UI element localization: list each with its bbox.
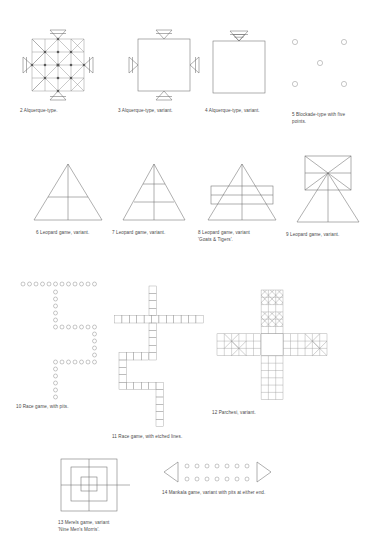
mankala-pit-row-top xyxy=(185,464,249,468)
appendage-right-triangle xyxy=(190,57,199,73)
board-square xyxy=(138,39,190,91)
figure-4-drawing xyxy=(205,28,285,106)
figure-14-mankala-variant: 14 Mankala game, variant with pits at ei… xyxy=(160,458,298,490)
figure-13-drawing xyxy=(58,456,134,518)
appendage-bottom-triangle xyxy=(156,91,172,100)
figure-10-race-game-with-pits: 10 Race game, with pits. xyxy=(16,278,108,403)
figure-11-drawing xyxy=(112,284,216,432)
figure-10-caption: 10 Race game, with pits. xyxy=(16,404,111,411)
figure-9-leopard-game: 9 Leopard game, variant. xyxy=(286,152,374,230)
mankala-pit-row-bottom xyxy=(185,477,249,481)
figure-8-drawing xyxy=(196,158,288,228)
figure-7-caption: 7 Leopard game, variant. xyxy=(112,230,207,237)
figure-8-caption: 8 Leopard game, variant 'Goats & Tigers'… xyxy=(198,230,293,243)
figure-9-caption: 9 Leopard game, variant. xyxy=(286,232,378,239)
appendage-right-triangle xyxy=(84,57,93,73)
parchesi-center-square xyxy=(261,334,283,356)
figure-3-alquerque-variant: 3 Alquerque-type, variant. xyxy=(118,28,210,106)
figure-11-race-game-etched-lines: 11 Race game, with etched lines. xyxy=(112,284,216,432)
figure-5-blockade-type: 5 Blockade-type with five points. xyxy=(288,32,358,94)
figure-7-leopard-game: 7 Leopard game, variant. xyxy=(112,158,198,228)
figure-10-drawing xyxy=(16,278,108,403)
figure-2-caption: 2 Alquerque-type. xyxy=(20,108,110,115)
figure-4-caption: 4 Alquerque-type, variant. xyxy=(205,108,300,115)
figure-12-parchesi-variant: 12 Parchesi, variant. xyxy=(210,288,378,428)
figure-4-alquerque-variant: 4 Alquerque-type, variant. xyxy=(205,28,285,106)
parchesi-right-arm-marked-cells xyxy=(305,334,327,356)
figure-8-goats-and-tigers: 8 Leopard game, variant 'Goats & Tigers'… xyxy=(196,158,288,228)
figure-5-caption: 5 Blockade-type with five points. xyxy=(292,112,374,125)
pit-track xyxy=(21,282,97,399)
figure-14-caption: 14 Mankala game, variant with pits at ei… xyxy=(162,490,312,497)
figure-6-drawing xyxy=(22,158,114,228)
appendage-bottom-triangle xyxy=(50,91,66,100)
alquerque-grid xyxy=(31,38,86,93)
figure-12-caption: 12 Parchesi, variant. xyxy=(212,410,322,417)
figure-13-caption: 13 Merels game, variant 'Nine Men's Morr… xyxy=(58,520,156,533)
figure-11-caption: 11 Race game, with etched lines. xyxy=(112,434,222,441)
figure-13-merels-nine-mens-morris: 13 Merels game, variant 'Nine Men's Morr… xyxy=(58,456,134,518)
appendage-top-double-triangle xyxy=(230,31,248,41)
appendage-left-triangle xyxy=(23,57,32,73)
figure-6-leopard-game: 6 Leopard game, variant. xyxy=(22,158,114,228)
figure-3-drawing xyxy=(118,28,210,106)
figure-2-drawing xyxy=(10,28,110,106)
figure-12-drawing xyxy=(210,288,378,428)
parchesi-left-arm-marked-cells xyxy=(224,334,246,356)
figure-2-alquerque-type: 2 Alquerque-type. xyxy=(10,28,110,106)
appendage-top-triangle xyxy=(156,30,172,39)
figure-3-caption: 3 Alquerque-type, variant. xyxy=(118,108,213,115)
right-end-triangle xyxy=(257,462,271,482)
left-end-triangle xyxy=(164,462,178,482)
appendage-left-triangle xyxy=(129,57,138,73)
parchesi-left-arm xyxy=(217,334,261,356)
blockade-points xyxy=(292,39,346,86)
parchesi-right-arm xyxy=(283,334,327,356)
board-square xyxy=(213,41,265,93)
figure-5-drawing xyxy=(288,32,358,94)
parchesi-bottom-arm xyxy=(261,356,283,400)
appendage-top-triangle xyxy=(50,30,66,39)
etched-cell-track xyxy=(115,286,204,427)
figure-9-drawing xyxy=(286,152,374,230)
parchesi-top-arm-hatched-cells xyxy=(261,290,283,327)
diagram-plate: 2 Alquerque-type. 3 Alquerque-type, var xyxy=(0,0,378,540)
figure-14-drawing xyxy=(160,458,298,490)
figure-7-drawing xyxy=(112,158,198,228)
